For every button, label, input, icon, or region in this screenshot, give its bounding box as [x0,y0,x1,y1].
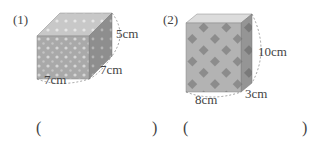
answer-2-open-paren: ( [183,119,188,137]
answer-1-open-paren: ( [36,119,41,137]
problem-1-length: 7cm [44,72,66,88]
problem-1-width: 7cm [100,62,122,78]
answer-1-close-paren: ) [152,119,157,137]
problem-2-number: (2) [163,12,178,28]
answer-2-close-paren: ) [302,119,307,137]
problem-2-length: 8cm [195,92,217,108]
problem-1-height: 5cm [116,26,138,42]
cuboid-2 [186,14,261,97]
problem-2-width: 3cm [245,86,267,102]
problem-2-height: 10cm [258,44,287,60]
problem-1-number: (1) [13,12,28,28]
